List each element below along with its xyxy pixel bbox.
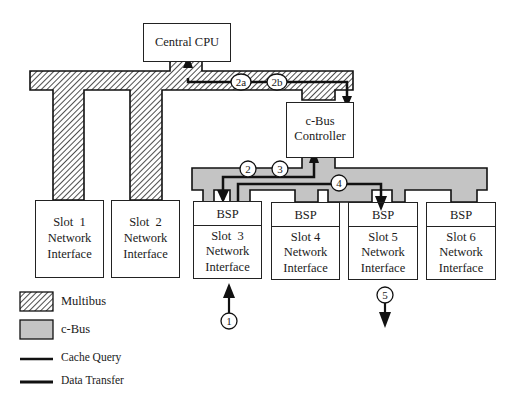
central-cpu-label: Central CPU (144, 35, 230, 50)
slot-5-bsp-label: BSP (349, 208, 417, 223)
slot-4-bsp-divider (272, 226, 339, 227)
slot-6-label: Slot 6 (427, 230, 495, 245)
legend-cache-query-label: Cache Query (61, 351, 121, 363)
slot-4-network-interface: BSP Slot 4 Network Interface (271, 202, 340, 280)
slot-4-label: Slot 4 (272, 230, 339, 245)
slot-2-label: Slot 2 (112, 215, 179, 230)
marker-2a: 2a (231, 75, 251, 90)
slot-5-network-label: Network (349, 245, 417, 260)
slot-2-network-label: Network (112, 231, 179, 246)
legend-cbus-label: c-Bus (61, 322, 90, 337)
slot-4-interface-label: Interface (272, 261, 339, 276)
slot-5-network-interface: BSP Slot 5 Network Interface (348, 202, 418, 280)
slot-6-network-label: Network (427, 245, 495, 260)
slot-2-interface-label: Interface (112, 247, 179, 262)
slot-1-network-interface: Slot 1 Network Interface (35, 200, 104, 278)
slot-6-interface-label: Interface (427, 261, 495, 276)
arrow-step-1 (223, 283, 235, 314)
marker-1: 1 (221, 314, 237, 329)
cbus-controller-box: c-Bus Controller (286, 102, 354, 158)
slot-1-network-label: Network (36, 231, 103, 246)
slot-3-network-interface: BSP Slot 3 Network Interface (193, 201, 262, 279)
marker-3: 3 (272, 162, 288, 177)
network-architecture-diagram: Central CPU c-Bus Controller Slot 1 Netw… (0, 0, 513, 407)
arrow-step-5 (379, 303, 391, 328)
slot-4-network-label: Network (272, 245, 339, 260)
marker-2: 2 (240, 162, 256, 177)
slot-3-interface-label: Interface (194, 260, 261, 275)
slot-4-bsp-label: BSP (272, 208, 339, 223)
cbus-controller-label-line2: Controller (287, 129, 353, 144)
slot-1-interface-label: Interface (36, 247, 103, 262)
central-cpu-box: Central CPU (143, 23, 231, 62)
cbus-controller-label-line1: c-Bus (287, 114, 353, 129)
legend-cbus-swatch (20, 320, 53, 339)
slot-5-label: Slot 5 (349, 230, 417, 245)
marker-4: 4 (331, 176, 347, 191)
slot-5-interface-label: Interface (349, 261, 417, 276)
slot-6-network-interface: BSP Slot 6 Network Interface (426, 202, 496, 280)
slot-6-bsp-divider (427, 226, 495, 227)
legend-multibus-label: Multibus (61, 294, 106, 309)
legend-data-transfer-label: Data Transfer (61, 374, 124, 386)
slot-3-network-label: Network (194, 244, 261, 259)
marker-2b: 2b (267, 75, 287, 90)
slot-2-network-interface: Slot 2 Network Interface (111, 200, 180, 278)
slot-3-bsp-label: BSP (194, 207, 261, 222)
slot-1-label: Slot 1 (36, 215, 103, 230)
slot-5-bsp-divider (349, 226, 417, 227)
legend-multibus-swatch (20, 292, 53, 311)
slot-6-bsp-label: BSP (427, 208, 495, 223)
slot-3-label: Slot 3 (194, 229, 261, 244)
slot-3-bsp-divider (194, 225, 261, 226)
marker-5: 5 (377, 288, 393, 303)
